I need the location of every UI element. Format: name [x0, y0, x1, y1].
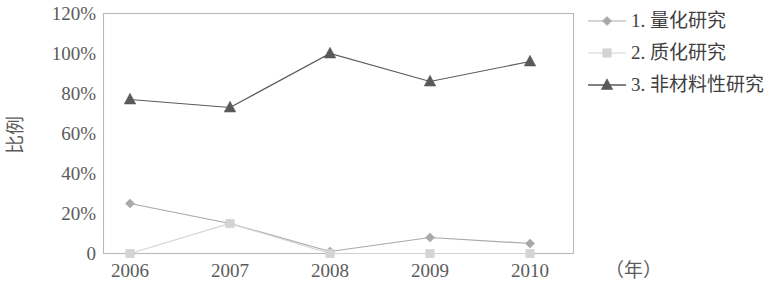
- x-axis-ticks: 2006 2007 2008 2009 2010: [111, 260, 549, 281]
- square-marker-icon: [588, 49, 626, 57]
- y-axis-ticks: 120% 100% 80% 60% 40% 20% 0: [52, 3, 97, 264]
- diamond-marker-icon: [125, 199, 134, 208]
- chart-canvas: 120% 100% 80% 60% 40% 20% 0 比例 2006 2007…: [0, 0, 773, 305]
- line-chart-figure: 120% 100% 80% 60% 40% 20% 0 比例 2006 2007…: [0, 0, 773, 305]
- plot-area-frame: [104, 14, 574, 254]
- x-tick-label: 2008: [311, 260, 349, 281]
- legend-item-label: 2. 质化研究: [631, 42, 726, 63]
- x-tick-label: 2006: [111, 260, 149, 281]
- x-axis-unit-label: （年）: [605, 260, 662, 281]
- x-tick-label: 2010: [511, 260, 549, 281]
- y-tick-label: 0: [87, 243, 97, 264]
- series-1: [125, 199, 534, 256]
- y-tick-label: 80%: [61, 83, 96, 104]
- triangle-marker-icon: [588, 79, 626, 90]
- series-2: [126, 219, 534, 257]
- y-axis-title: 比例: [5, 116, 26, 154]
- legend-item-2[interactable]: 2. 质化研究: [588, 42, 726, 63]
- triangle-marker-icon: [601, 79, 612, 90]
- square-marker-icon: [226, 219, 234, 227]
- square-marker-icon: [326, 249, 334, 257]
- square-marker-icon: [126, 249, 134, 257]
- triangle-marker-icon: [124, 93, 135, 104]
- triangle-marker-icon: [524, 55, 535, 66]
- legend-item-3[interactable]: 3. 非材料性研究: [588, 74, 764, 95]
- diamond-marker-icon: [525, 239, 534, 248]
- series-line: [130, 204, 530, 252]
- square-marker-icon: [426, 249, 434, 257]
- diamond-marker-icon: [602, 16, 611, 25]
- legend-item-1[interactable]: 1. 量化研究: [588, 10, 726, 31]
- y-tick-label: 120%: [52, 3, 97, 24]
- y-tick-label: 100%: [52, 43, 97, 64]
- legend-item-label: 3. 非材料性研究: [631, 74, 764, 95]
- legend: 1. 量化研究 2. 质化研究 3. 非材料性研究: [588, 10, 764, 95]
- series-layer: [124, 47, 535, 257]
- diamond-marker-icon: [588, 16, 626, 25]
- y-tick-label: 20%: [61, 203, 96, 224]
- series-line: [130, 54, 530, 108]
- x-tick-label: 2007: [211, 260, 249, 281]
- diamond-marker-icon: [425, 233, 434, 242]
- square-marker-icon: [526, 249, 534, 257]
- triangle-marker-icon: [324, 47, 335, 58]
- square-marker-icon: [603, 49, 611, 57]
- x-tick-label: 2009: [411, 260, 449, 281]
- series-3: [124, 47, 535, 112]
- y-tick-label: 60%: [61, 123, 96, 144]
- y-tick-label: 40%: [61, 163, 96, 184]
- legend-item-label: 1. 量化研究: [631, 10, 726, 31]
